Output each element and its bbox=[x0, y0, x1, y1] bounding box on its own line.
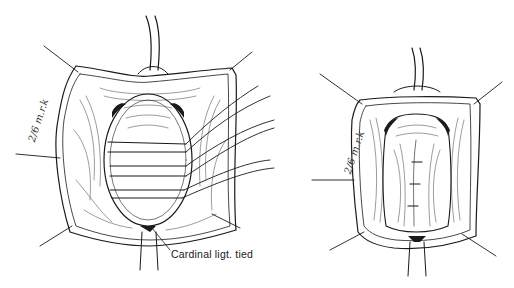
right-illustration-panel: 2/6 m.r.k bbox=[290, 0, 514, 288]
left-illustration-panel: Cardinal ligt. tied 2/6 m.r.k bbox=[0, 0, 290, 288]
right-surgical-drawing bbox=[290, 0, 514, 288]
left-surgical-drawing bbox=[0, 0, 290, 288]
cardinal-ligament-label: Cardinal ligt. tied bbox=[171, 248, 253, 260]
